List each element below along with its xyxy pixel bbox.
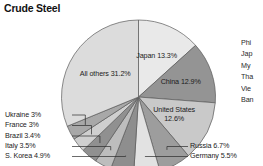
leader-label: Ukraine 3% — [5, 110, 41, 119]
leader-label: S. Korea 4.9% — [5, 151, 50, 160]
slice-label-text: Japan 13.3% — [136, 51, 177, 60]
slice-label: United States12.6% — [134, 106, 214, 123]
side-legend: Phi Jap My Tha Vie Ban — [241, 37, 263, 105]
side-legend-item: Jap — [241, 48, 263, 59]
slice-label-text: All others 31.2% — [80, 69, 131, 78]
slice-label: China 12.9% — [141, 78, 221, 86]
side-legend-item: My — [241, 60, 263, 71]
leader-label: Italy 3.5% — [5, 141, 36, 150]
side-legend-item: Ban — [241, 94, 263, 105]
leader-label: Germany 5.5% — [190, 151, 237, 160]
leader-label: France 3% — [5, 120, 39, 129]
leader-label: Brazil 3.4% — [5, 131, 40, 140]
slice-label: All others 31.2% — [65, 70, 145, 78]
side-legend-item: Tha — [241, 71, 263, 82]
slice-label-text: China 12.9% — [161, 77, 201, 86]
slice-label: Japan 13.3% — [117, 52, 197, 60]
side-legend-item: Vie — [241, 83, 263, 94]
side-legend-item: Phi — [241, 37, 263, 48]
leader-label: Russia 6.7% — [190, 141, 229, 150]
slice-label-value: 12.6% — [164, 114, 184, 123]
crude-steel-pie-chart: Crude Steel Japan 13.3%China 12.9%United… — [0, 0, 263, 166]
